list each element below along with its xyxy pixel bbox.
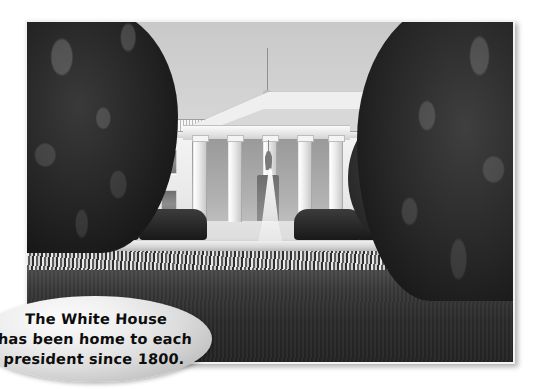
hedge <box>294 209 362 240</box>
caption-text: The White House has been home to each pr… <box>0 309 202 369</box>
tree-right <box>357 22 513 301</box>
flagpole <box>267 48 268 96</box>
page-canvas: The White House has been home to each pr… <box>0 0 542 391</box>
caption-bubble: The White House has been home to each pr… <box>0 296 212 382</box>
lantern-rod <box>268 140 269 154</box>
portico-column <box>228 139 242 222</box>
